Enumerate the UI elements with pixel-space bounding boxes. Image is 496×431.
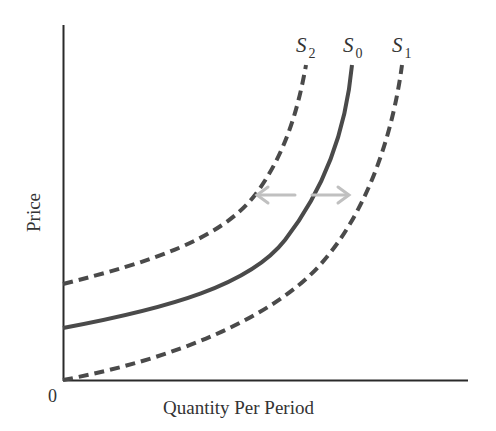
x-axis-label: Quantity Per Period — [163, 397, 314, 418]
curve-s1 — [63, 65, 402, 380]
curve-s0 — [63, 65, 352, 328]
shift-arrow — [257, 187, 349, 203]
label-s1: S1 — [392, 33, 412, 61]
label-s2: S2 — [296, 33, 316, 61]
label-s0: S0 — [343, 33, 363, 61]
y-axis-label: Price — [23, 193, 44, 232]
curve-s2 — [63, 65, 306, 284]
supply-shift-chart: S2 S0 S1 0 Quantity Per Period Price — [0, 0, 496, 431]
origin-label: 0 — [48, 386, 57, 406]
